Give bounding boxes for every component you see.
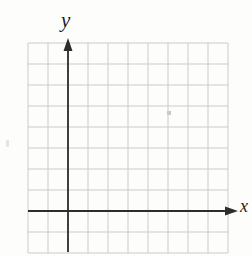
grid-and-axes-canvas xyxy=(0,0,252,257)
scan-speck xyxy=(167,111,171,115)
y-axis-label: y xyxy=(61,10,70,31)
x-axis-label: x xyxy=(240,197,248,215)
y-axis-arrowhead-icon xyxy=(64,38,73,51)
x-axis-arrowhead-icon xyxy=(225,207,238,216)
scan-speck xyxy=(6,140,9,147)
coordinate-plane-figure: y x xyxy=(0,0,252,257)
